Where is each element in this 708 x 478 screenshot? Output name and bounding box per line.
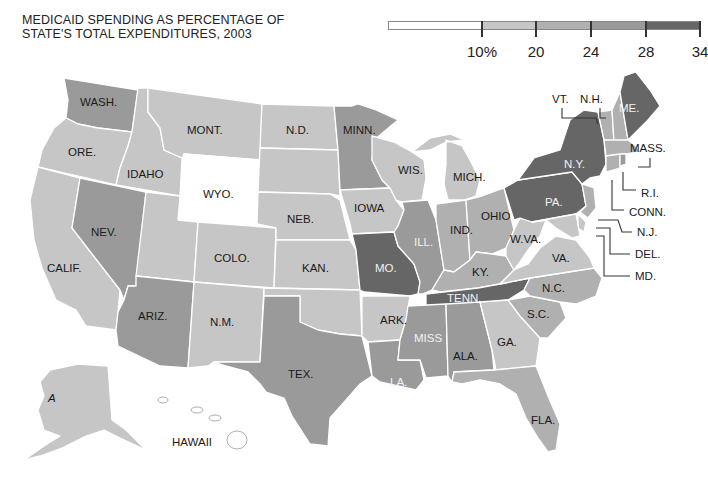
label-me: ME. bbox=[619, 102, 639, 114]
label-ny: N.Y. bbox=[564, 158, 585, 170]
label-neb: NEB. bbox=[287, 213, 314, 225]
leader-md bbox=[596, 236, 630, 276]
label-nh: N.H. bbox=[580, 93, 603, 105]
label-calif: CALIF. bbox=[47, 262, 82, 274]
label-tex: TEX. bbox=[288, 368, 314, 380]
label-ore: ORE. bbox=[68, 146, 96, 158]
label-iowa: IOWA bbox=[354, 202, 385, 214]
label-kan: KAN. bbox=[302, 262, 329, 274]
label-fla: FLA. bbox=[531, 414, 555, 426]
label-ark: ARK. bbox=[380, 314, 407, 326]
label-mass: MASS. bbox=[630, 142, 666, 154]
label-conn: CONN. bbox=[629, 206, 666, 218]
label-ind: IND. bbox=[450, 224, 473, 236]
label-nd: N.D. bbox=[286, 124, 309, 136]
state-alaska bbox=[24, 364, 146, 460]
label-colo: COLO. bbox=[214, 252, 250, 264]
state-rhode-island bbox=[620, 154, 626, 166]
label-va: VA. bbox=[552, 252, 570, 264]
label-miss: MISS bbox=[414, 332, 442, 344]
label-hawaii: HAWAII bbox=[172, 436, 212, 448]
label-wash: WASH. bbox=[80, 96, 117, 108]
label-tenn: TENN. bbox=[447, 292, 482, 304]
state-connecticut bbox=[606, 154, 620, 172]
label-del: DEL. bbox=[635, 248, 661, 260]
label-wis: WIS. bbox=[398, 164, 423, 176]
label-pa: PA. bbox=[545, 196, 563, 208]
label-sc: S.C. bbox=[527, 308, 549, 320]
label-wyo: WYO. bbox=[203, 188, 234, 200]
label-nev: NEV. bbox=[91, 226, 117, 238]
label-md: MD. bbox=[635, 270, 656, 282]
label-nc: N.C. bbox=[542, 282, 565, 294]
label-mont: MONT. bbox=[187, 124, 223, 136]
label-ill: ILL. bbox=[414, 236, 433, 248]
label-ohio: OHIO bbox=[481, 210, 510, 222]
label-ky: KY. bbox=[472, 266, 489, 278]
state-south-dakota bbox=[258, 148, 340, 196]
label-wva: W.VA. bbox=[510, 233, 541, 245]
leader-nj bbox=[598, 220, 632, 232]
state-new-york bbox=[518, 110, 606, 184]
label-idaho: IDAHO bbox=[127, 168, 163, 180]
label-mo: MO. bbox=[375, 262, 397, 274]
state-florida bbox=[452, 366, 560, 452]
leader-conn bbox=[612, 180, 624, 210]
label-ri: R.I. bbox=[641, 187, 659, 199]
state-arizona bbox=[116, 276, 194, 368]
label-nj: N.J. bbox=[637, 226, 657, 238]
leader-ri bbox=[623, 172, 636, 190]
label-vt: VT. bbox=[552, 93, 569, 105]
label-ga: GA. bbox=[497, 336, 517, 348]
legend-tick-34 bbox=[699, 21, 701, 37]
label-la: LA. bbox=[390, 376, 407, 388]
leader-mass bbox=[638, 158, 650, 167]
legend-label-34: 34 bbox=[692, 43, 708, 60]
label-ariz: ARIZ. bbox=[138, 310, 167, 322]
label-alaska-fragment: A bbox=[47, 392, 56, 404]
label-mich: MICH. bbox=[453, 171, 486, 183]
label-minn: MINN. bbox=[343, 124, 376, 136]
label-ala: ALA. bbox=[453, 350, 478, 362]
label-nm: N.M. bbox=[210, 316, 234, 328]
